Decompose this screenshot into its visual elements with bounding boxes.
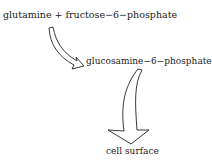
arrows-layer <box>0 0 212 164</box>
curved-arrow-icon-2 <box>108 69 149 144</box>
pathway-diagram: glutamine + fructose−6−phosphate glucosa… <box>0 0 212 164</box>
product-label: glucosamine−6−phosphate <box>86 57 212 66</box>
destination-label: cell surface <box>106 147 159 156</box>
curved-arrow-icon-1 <box>49 27 84 69</box>
